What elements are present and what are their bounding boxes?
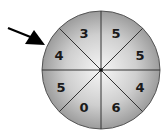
- sector-label-left-lower: 5: [56, 80, 65, 95]
- spinner-wheel: 5 5 4 6 0 5 4 3: [42, 11, 160, 129]
- sector-label-right-upper: 5: [135, 48, 144, 63]
- sector-label-top-left: 3: [79, 26, 88, 41]
- sector-label-bottom-left: 0: [79, 100, 88, 115]
- sector-label-top-right: 5: [111, 26, 120, 41]
- pointer-arrow-icon: [8, 28, 45, 45]
- sector-label-left-upper: 4: [54, 48, 63, 63]
- spinner-diagram: 5 5 4 6 0 5 4 3: [0, 0, 168, 135]
- sector-label-bottom-right: 6: [111, 100, 120, 115]
- spinner-hub: [99, 68, 103, 72]
- sector-label-right-lower: 4: [135, 80, 144, 95]
